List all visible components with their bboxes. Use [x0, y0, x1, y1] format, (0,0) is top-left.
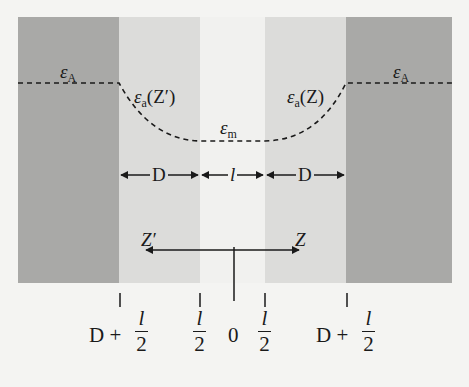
z-axis-label: Z	[295, 230, 306, 249]
l-label: l	[228, 165, 237, 184]
tick-label-left-outer-prefix: D +	[89, 325, 121, 346]
eps-a-z-label: εa(Z)	[287, 87, 324, 109]
tick-label-left-inner-frac: l2	[193, 308, 206, 355]
tick-label-origin: 0	[228, 325, 239, 346]
eps-A-right-label: εA	[393, 62, 409, 84]
z-prime-axis-label: Z′	[141, 230, 156, 249]
tick-label-right-outer-prefix: D +	[316, 325, 348, 346]
left-D-label: D	[150, 165, 168, 184]
right-D-label: D	[296, 165, 314, 184]
tick-label-right-outer-frac: l2	[362, 308, 375, 355]
eps-m-label: εm	[220, 118, 237, 140]
eps-a-zprime-label: εa(Z′)	[134, 87, 175, 109]
eps-A-left-label: εA	[60, 62, 76, 84]
tick-label-left-outer-frac: l2	[135, 308, 148, 355]
tick-label-right-inner-frac: l2	[258, 308, 271, 355]
